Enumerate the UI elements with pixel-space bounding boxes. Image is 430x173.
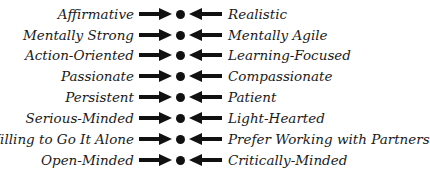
center-dot-icon (176, 93, 185, 102)
right-trait-label: Realistic (228, 4, 287, 24)
arrow-right-icon (139, 49, 172, 61)
arrow-right-icon (139, 91, 172, 103)
arrow-right-icon (139, 8, 172, 20)
left-trait-label: Willing to Go It Alone (0, 129, 134, 149)
arrow-right-icon (139, 70, 172, 82)
left-trait-label: Passionate (61, 66, 134, 86)
right-trait-label: Learning-Focused (228, 45, 351, 65)
center-dot-icon (176, 72, 185, 81)
trait-pair-row: Willing to Go It Alone Prefer Working wi… (0, 129, 392, 149)
center-dot-icon (176, 51, 185, 60)
arrow-right-icon (139, 154, 172, 166)
arrow-right-icon (139, 29, 172, 41)
left-trait-label: Persistent (65, 87, 134, 107)
arrow-left-icon (189, 91, 222, 103)
left-trait-label: Serious-Minded (26, 108, 134, 128)
arrow-left-icon (189, 112, 222, 124)
trait-pair-row: Persistent Patient (0, 87, 392, 107)
arrow-right-icon (139, 133, 172, 145)
arrow-left-icon (189, 70, 222, 82)
right-trait-label: Compassionate (228, 66, 332, 86)
arrow-left-icon (189, 29, 222, 41)
center-dot-icon (176, 156, 185, 165)
trait-pair-row: Mentally Strong Mentally Agile (0, 25, 392, 45)
center-dot-icon (176, 31, 185, 40)
right-trait-label: Critically-Minded (228, 150, 347, 170)
trait-pair-row: Passionate Compassionate (0, 66, 392, 86)
trait-pair-row: Action-Oriented Learning-Focused (0, 45, 392, 65)
right-trait-label: Patient (228, 87, 276, 107)
center-dot-icon (176, 10, 185, 19)
trait-pair-row: Open-Minded Critically-Minded (0, 150, 392, 170)
left-trait-label: Open-Minded (41, 150, 134, 170)
arrow-left-icon (189, 8, 222, 20)
center-dot-icon (176, 114, 185, 123)
arrow-left-icon (189, 133, 222, 145)
right-trait-label: Prefer Working with Partners (228, 129, 430, 149)
left-trait-label: Action-Oriented (25, 45, 134, 65)
trait-pair-row: Affirmative Realistic (0, 4, 392, 24)
trait-pair-row: Serious-Minded Light-Hearted (0, 108, 392, 128)
arrow-left-icon (189, 49, 222, 61)
center-dot-icon (176, 135, 185, 144)
right-trait-label: Light-Hearted (228, 108, 325, 128)
arrow-left-icon (189, 154, 222, 166)
right-trait-label: Mentally Agile (228, 25, 328, 45)
arrow-right-icon (139, 112, 172, 124)
left-trait-label: Mentally Strong (23, 25, 134, 45)
left-trait-label: Affirmative (58, 4, 134, 24)
